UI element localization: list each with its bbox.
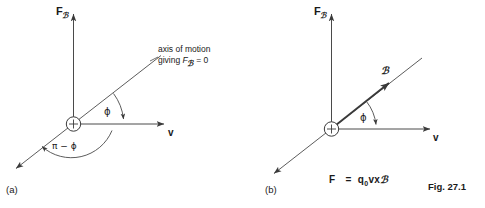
- panel-a-label: (a): [6, 185, 18, 195]
- panel-a-velocity-label: v: [168, 128, 174, 138]
- panel-a-graphics: [16, 14, 164, 169]
- panel-b-angle-phi-arc: [367, 102, 377, 125]
- figure-27-1: Fℬ axis of motion giving Fℬ = 0 ϕ π − ϕ …: [0, 0, 485, 208]
- panel-b-force-subscript-script-b: ℬ: [320, 10, 326, 20]
- panel-b-charge-marker: [324, 122, 338, 136]
- panel-b-velocity-label: v: [433, 133, 439, 143]
- equation-force-symbol: F: [329, 174, 335, 185]
- panel-a-annotation-giving: giving: [158, 55, 183, 65]
- panel-a-angle-phi-arc: [114, 94, 124, 120]
- panel-b-force-label: Fℬ: [314, 6, 327, 17]
- panel-a-annotation: axis of motion giving Fℬ = 0: [158, 44, 210, 66]
- panel-b-field-vector-label: ℬ: [381, 66, 389, 76]
- panel-a-force-subscript-script-b: ℬ: [62, 10, 68, 20]
- figure-caption: Fig. 27.1: [428, 182, 466, 192]
- panel-b-graphics: [274, 14, 430, 174]
- panel-a-annotation-line-1: axis of motion: [158, 44, 210, 55]
- panel-a-axis-of-motion-line: [16, 56, 161, 169]
- panel-b-angle-phi-label: ϕ: [360, 113, 367, 123]
- lorentz-force-equation: F = q0vxℬ: [329, 175, 388, 187]
- panel-a-angle-phi-label: ϕ: [104, 107, 111, 117]
- figure-vector-graphics: [0, 0, 485, 208]
- equation-equals: =: [346, 174, 352, 185]
- panel-b-script-b-symbol: ℬ: [381, 65, 389, 76]
- equation-field-symbol: ℬ: [380, 174, 388, 185]
- panel-a-annotation-force-subscript: ℬ: [187, 58, 193, 68]
- panel-a-angle-pi-minus-phi-label: π − ϕ: [52, 142, 77, 151]
- panel-a-force-label: Fℬ: [56, 6, 69, 17]
- panel-a-charge-marker: [66, 117, 80, 131]
- panel-a-annotation-equals-zero: = 0: [194, 55, 208, 65]
- panel-a-annotation-line-2: giving Fℬ = 0: [158, 55, 210, 66]
- panel-b-label: (b): [265, 185, 277, 195]
